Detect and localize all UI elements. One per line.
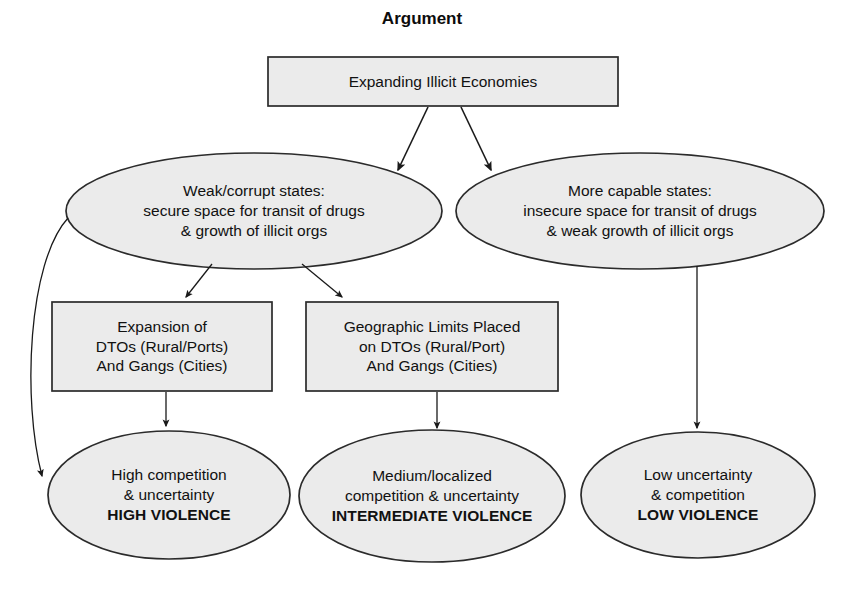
edge-root-to-left-ellipse bbox=[398, 107, 428, 170]
diagram-graphics bbox=[0, 0, 844, 589]
diagram-canvas: Argument Expanding Illicit Economies bbox=[0, 0, 844, 589]
node-right-ellipse bbox=[456, 153, 824, 269]
node-root-box bbox=[268, 57, 618, 106]
node-left-ellipse bbox=[66, 153, 442, 269]
edge-left-ellipse-to-mid-box-right bbox=[302, 264, 342, 297]
edge-left-ellipse-to-mid-box-left bbox=[186, 264, 212, 297]
node-outcome-high bbox=[48, 431, 290, 559]
node-mid-box-right bbox=[306, 302, 558, 391]
node-outcome-low bbox=[581, 432, 815, 558]
node-outcome-intermediate bbox=[299, 430, 565, 562]
edge-root-to-right-ellipse bbox=[461, 107, 491, 170]
node-mid-box-left bbox=[52, 302, 272, 391]
